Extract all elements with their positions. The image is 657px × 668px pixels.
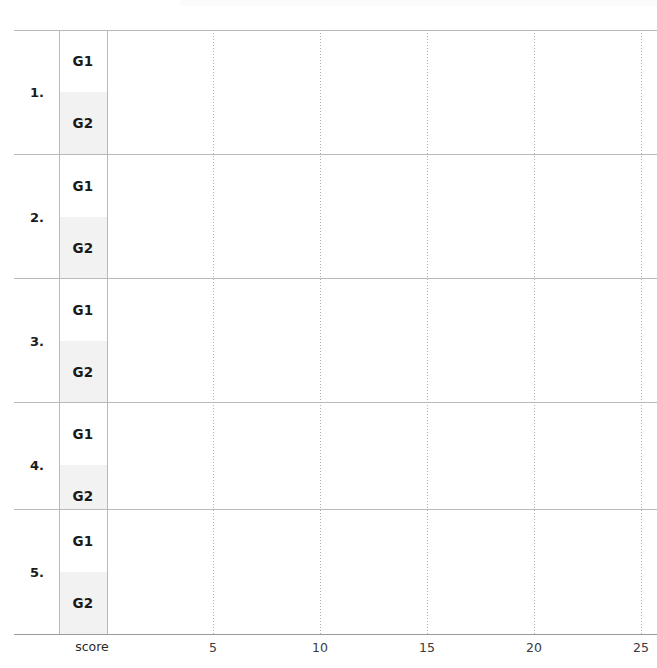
group-divider-4-5 <box>14 509 657 510</box>
panel-row-2-g2: G2 <box>0 217 657 279</box>
panel-row-label: G2 <box>59 92 107 154</box>
group-number-label: 3. <box>0 279 52 403</box>
panel-plot-area <box>107 279 657 341</box>
panel-row-2-g1: G1 <box>0 155 657 217</box>
panel-group-3: G1 G2 3. <box>0 279 657 403</box>
panel-row-3-g2: G2 <box>0 341 657 403</box>
gridline-5 <box>213 30 214 634</box>
panel-plot-area <box>107 30 657 92</box>
group-number-label: 1. <box>0 30 52 154</box>
chart-canvas: G1 G2 1. G1 G2 2. G1 <box>0 0 657 668</box>
panel-row-1-g1: G1 <box>0 30 657 92</box>
y-axis-line <box>107 30 108 634</box>
panel-top-border <box>14 30 657 31</box>
panel-row-label: G2 <box>59 572 107 634</box>
x-tick-label-10: 10 <box>312 640 328 655</box>
x-axis-line <box>14 634 657 635</box>
gridline-10 <box>320 30 321 634</box>
panel-row-label: G1 <box>59 403 107 465</box>
panel-row-label: G1 <box>59 279 107 341</box>
panel-row-label: G2 <box>59 341 107 403</box>
panel-row-3-g1: G1 <box>0 279 657 341</box>
group-number-label: 2. <box>0 155 52 279</box>
x-tick-label-25: 25 <box>633 640 649 655</box>
group-divider-2-3 <box>14 278 657 279</box>
panel-plot-area <box>107 510 657 572</box>
panel-row-5-g1: G1 <box>0 510 657 572</box>
panel-row-label: G1 <box>59 510 107 572</box>
gridline-15 <box>427 30 428 634</box>
group-divider-1-2 <box>14 154 657 155</box>
panel-plot-area <box>107 403 657 465</box>
gridline-25 <box>641 30 642 634</box>
panel-row-1-g2: G2 <box>0 92 657 154</box>
panel-group-1: G1 G2 1. <box>0 30 657 154</box>
panel-plot-area <box>107 155 657 217</box>
panel-row-label: G2 <box>59 217 107 279</box>
gridline-20 <box>534 30 535 634</box>
panel-row-4-g1: G1 <box>0 403 657 465</box>
panel-group-2: G1 G2 2. <box>0 155 657 279</box>
x-tick-label-20: 20 <box>526 640 542 655</box>
group-number-label: 5. <box>0 510 52 634</box>
panel-row-label: G1 <box>59 155 107 217</box>
clipped-top-strip <box>180 0 657 6</box>
x-tick-label-5: 5 <box>209 640 217 655</box>
panel-group-5: G1 G2 5. <box>0 510 657 634</box>
panel-plot-area <box>107 217 657 279</box>
x-tick-label-15: 15 <box>419 640 435 655</box>
panel-row-5-g2: G2 <box>0 572 657 634</box>
x-axis-title: score <box>75 639 109 654</box>
group-divider-3-4 <box>14 402 657 403</box>
label-column-left-border <box>59 30 60 634</box>
panel-plot-area <box>107 341 657 403</box>
panel-plot-area <box>107 572 657 634</box>
panel-row-label: G1 <box>59 30 107 92</box>
panel-plot-area <box>107 92 657 154</box>
